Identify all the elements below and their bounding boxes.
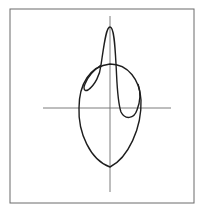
plot-frame bbox=[10, 9, 194, 203]
figure bbox=[0, 0, 205, 207]
plot-canvas bbox=[0, 0, 205, 207]
inner-lobe-curve bbox=[84, 27, 140, 117]
